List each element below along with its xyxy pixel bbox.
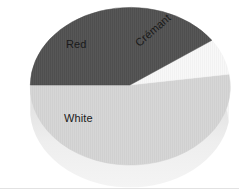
pie-chart-svg: [0, 0, 239, 194]
pie-chart-figure: Red White Crémant: [0, 0, 239, 194]
pie-top-face: [30, 7, 230, 165]
pie-slice-label-red: Red: [66, 39, 86, 50]
bottom-divider: [0, 188, 239, 189]
pie-slice-label-white: White: [64, 113, 93, 124]
